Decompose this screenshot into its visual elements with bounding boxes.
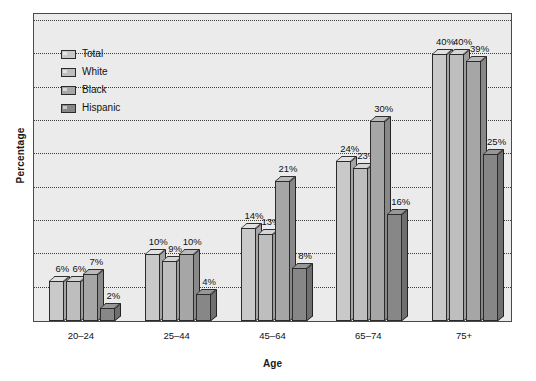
bar-front-face (432, 54, 447, 321)
bar-front-face (353, 168, 368, 321)
legend-item: Total (61, 46, 153, 62)
x-tick-label: 45–64 (233, 330, 313, 341)
bar-value-label: 25% (477, 136, 512, 147)
legend-item: Hispanic (61, 100, 153, 116)
bar-value-label: 8% (285, 250, 325, 261)
x-tick-label: 25–44 (137, 330, 217, 341)
x-tick-label: 75+ (424, 330, 504, 341)
bar-front-face (66, 281, 81, 321)
x-axis-tick-labels: 20–2425–4445–6465–7475+ (33, 330, 512, 346)
bar-value-label: 4% (189, 276, 229, 287)
legend-item: White (61, 64, 153, 80)
bar-front-face (100, 308, 115, 321)
x-tick-label: 20–24 (41, 330, 121, 341)
legend-swatch-icon (61, 104, 76, 113)
bar-group: 14%13%21%8% (241, 14, 307, 321)
bar-front-face (145, 254, 160, 321)
bar-front-face (179, 254, 194, 321)
bar-group: 40%40%39%25% (432, 14, 498, 321)
bar-side-face (307, 263, 313, 321)
x-axis-title: Age (33, 358, 512, 369)
legend-swatch-icon (61, 50, 76, 59)
bar-side-face (498, 149, 504, 321)
bar-front-face (241, 228, 256, 321)
bar-front-face (196, 294, 211, 321)
bar-front-face (162, 261, 177, 321)
bar-value-label: 30% (364, 103, 404, 114)
bar-value-label: 21% (268, 163, 308, 174)
bar-chart: Percentage 6%6%7%2%10%9%10%4%14%13%21%8%… (0, 0, 536, 381)
bar-group: 10%9%10%4% (145, 14, 211, 321)
bar-front-face (258, 234, 273, 321)
bar-front-face (292, 268, 307, 321)
legend-item: Black (61, 82, 153, 98)
bar-value-label: 2% (93, 290, 133, 301)
bar-value-label: 16% (381, 196, 421, 207)
bar-group: 24%23%30%16% (336, 14, 402, 321)
bar-value-label: 39% (460, 43, 500, 54)
legend-label: White (82, 67, 108, 77)
legend-swatch-icon (61, 68, 76, 77)
bar-value-label: 7% (76, 256, 116, 267)
legend-label: Total (82, 49, 103, 59)
bar-front-face (387, 214, 402, 321)
bar-side-face (402, 209, 408, 321)
legend-label: Hispanic (82, 103, 120, 113)
bar-front-face (466, 61, 481, 321)
plot-area: 6%6%7%2%10%9%10%4%14%13%21%8%24%23%30%16… (33, 13, 512, 322)
y-axis-title: Percentage (15, 106, 26, 206)
bar-front-face (483, 154, 498, 321)
x-tick-label: 65–74 (328, 330, 408, 341)
bar-front-face (449, 54, 464, 321)
bar-front-face (49, 281, 64, 321)
bar-side-face (211, 289, 217, 321)
bar-front-face (336, 161, 351, 321)
legend: TotalWhiteBlackHispanic (61, 46, 153, 118)
legend-label: Black (82, 85, 106, 95)
bar-value-label: 10% (172, 236, 212, 247)
bar-front-face (370, 121, 385, 321)
legend-swatch-icon (61, 86, 76, 95)
